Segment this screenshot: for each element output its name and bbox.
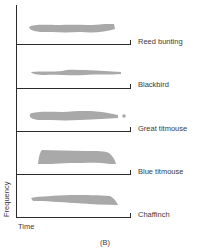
species-label-great-titmouse: Great titmouse [138,124,187,133]
species-label-blue-titmouse: Blue titmouse [138,167,183,176]
figure-caption: (B) [100,238,110,247]
song-trace-chaffinch [31,195,118,205]
song-trace-blackbird [31,70,121,76]
song-trace-reed-bunting [29,24,115,32]
species-label-reed-bunting: Reed bunting [138,37,183,46]
song-trace-blue-titmouse [38,150,116,164]
song-trace-great-titmouse-end [122,114,126,118]
sonogram-figure: Reed bunting Blackbird Great titmouse Bl… [0,0,201,250]
x-axis-label: Time [18,222,34,231]
species-label-blackbird: Blackbird [138,80,169,89]
species-label-chaffinch: Chaffinch [138,210,170,219]
song-trace-great-titmouse [30,111,118,120]
y-axis-label: Frequency [2,182,11,217]
